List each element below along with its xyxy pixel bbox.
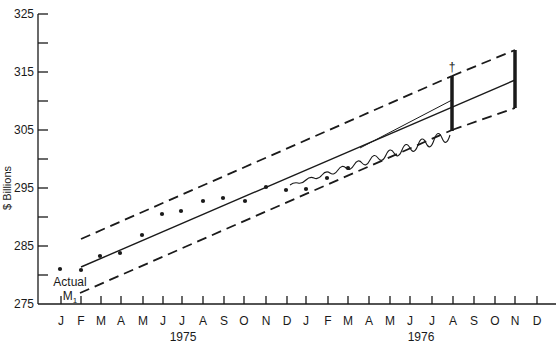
x-tick-label: J <box>407 314 413 328</box>
m-subscript: 1 <box>73 296 78 305</box>
x-tick-label: S <box>220 314 228 328</box>
center-target-line <box>81 80 515 267</box>
actual-label: Actual <box>53 275 86 289</box>
x-tick-label: O <box>239 314 248 328</box>
x-tick-label: D <box>533 314 542 328</box>
y-tick-label-305: 305 <box>14 123 34 137</box>
x-tick-label: J <box>58 314 64 328</box>
year-label-1975: 1975 <box>170 330 197 344</box>
x-tick-label: A <box>199 314 207 328</box>
x-tick-label: J <box>160 314 166 328</box>
y-axis-title: $ Billions <box>1 165 13 210</box>
m1-label: M1 <box>63 289 78 305</box>
year-label-1976: 1976 <box>408 330 435 344</box>
x-tick-label: M <box>138 314 148 328</box>
x-tick-label: J <box>303 314 309 328</box>
x-tick-label: N <box>262 314 271 328</box>
y-tick-label-295: 295 <box>14 181 34 195</box>
upper-bound-line-ext <box>452 50 515 76</box>
m1-target-chart: 325 315 305 295 285 275 $ Billions J F <box>0 0 559 345</box>
y-tick-label-285: 285 <box>14 239 34 253</box>
x-tick-label: A <box>117 314 125 328</box>
lower-bound-line <box>80 130 452 293</box>
y-tick-label-325: 325 <box>14 7 34 21</box>
y-tick-label-275: 275 <box>14 297 34 311</box>
alt-path-line <box>360 100 452 148</box>
x-tick-label: M <box>343 314 353 328</box>
x-tick-label: F <box>77 314 84 328</box>
x-tick-label: A <box>449 314 457 328</box>
x-tick-label: S <box>470 314 478 328</box>
y-major-ticks <box>38 14 48 275</box>
x-tick-label: A <box>365 314 373 328</box>
x-tick-label: J <box>179 314 185 328</box>
upper-bound-line <box>81 76 452 239</box>
x-tick-label: O <box>490 314 499 328</box>
x-tick-label: D <box>283 314 292 328</box>
x-tick-label: M <box>385 314 395 328</box>
actual-m1-points <box>58 166 350 272</box>
x-tick-label: F <box>324 314 331 328</box>
x-tick-labels: J F M A M J J A S O N D J F M A M J J A … <box>58 314 542 328</box>
x-tick-label: N <box>511 314 520 328</box>
x-tick-label: M <box>96 314 106 328</box>
m-letter: M <box>63 289 73 303</box>
y-tick-label-315: 315 <box>14 65 34 79</box>
dagger-footnote-mark: † <box>449 60 456 74</box>
lower-bound-line-ext <box>452 108 515 130</box>
x-ticks <box>61 296 537 304</box>
x-tick-label: J <box>429 314 435 328</box>
